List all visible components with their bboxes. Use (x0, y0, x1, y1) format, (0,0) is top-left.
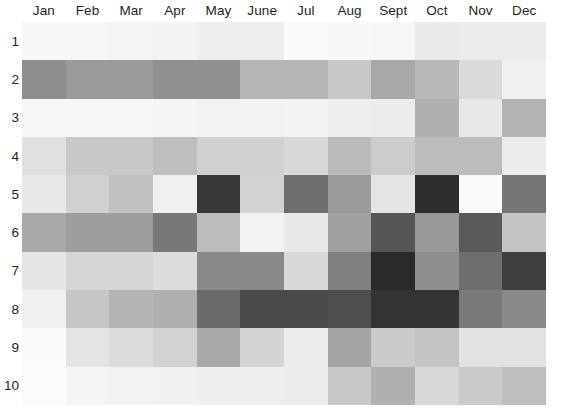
heatmap-cell-9-Nov (459, 328, 503, 366)
heatmap-cell-4-Oct (415, 137, 459, 175)
column-header-mar: Mar (109, 0, 153, 22)
row-header-8: 8 (0, 290, 22, 328)
heatmap-cell-6-Apr (153, 213, 197, 251)
heatmap-cell-8-May (197, 290, 241, 328)
heatmap-cell-1-Feb (66, 22, 110, 60)
heatmap-cell-2-May (197, 60, 241, 98)
heatmap-cell-8-Mar (109, 290, 153, 328)
heatmap-cell-7-Aug (328, 252, 372, 290)
heatmap-cell-1-Aug (328, 22, 372, 60)
heatmap-row-6 (22, 213, 546, 251)
heatmap-row-7 (22, 252, 546, 290)
heatmap-cell-10-Jul (284, 367, 328, 405)
heatmap-cell-8-Apr (153, 290, 197, 328)
heatmap-cell-2-Nov (459, 60, 503, 98)
heatmap-row-5 (22, 175, 546, 213)
heatmap-cell-1-June (240, 22, 284, 60)
heatmap-cell-1-May (197, 22, 241, 60)
heatmap-cell-6-Nov (459, 213, 503, 251)
row-header-9: 9 (0, 328, 22, 366)
heatmap-cell-7-June (240, 252, 284, 290)
heatmap-cell-3-June (240, 99, 284, 137)
heatmap-cell-8-Nov (459, 290, 503, 328)
row-header-5: 5 (0, 175, 22, 213)
heatmap-cell-6-Jul (284, 213, 328, 251)
heatmap-cell-5-Sept (371, 175, 415, 213)
heatmap-cell-4-Dec (502, 137, 546, 175)
heatmap-cell-7-Sept (371, 252, 415, 290)
heatmap-cell-8-Jul (284, 290, 328, 328)
heatmap-cell-10-Sept (371, 367, 415, 405)
heatmap-cell-5-May (197, 175, 241, 213)
heatmap-cell-3-Apr (153, 99, 197, 137)
row-header-7: 7 (0, 252, 22, 290)
heatmap-cell-10-Apr (153, 367, 197, 405)
heatmap-cell-9-Feb (66, 328, 110, 366)
heatmap-cell-6-Aug (328, 213, 372, 251)
column-header-jan: Jan (22, 0, 66, 22)
heatmap-cell-5-Jan (22, 175, 66, 213)
heatmap-cell-3-Jul (284, 99, 328, 137)
heatmap-cell-10-June (240, 367, 284, 405)
heatmap-cell-8-June (240, 290, 284, 328)
heatmap-cell-1-Nov (459, 22, 503, 60)
heatmap-cell-6-Feb (66, 213, 110, 251)
heatmap-cell-5-Feb (66, 175, 110, 213)
heatmap-cell-8-Sept (371, 290, 415, 328)
heatmap-cell-10-Jan (22, 367, 66, 405)
heatmap-cell-6-May (197, 213, 241, 251)
heatmap-row-8 (22, 290, 546, 328)
heatmap-cell-5-Apr (153, 175, 197, 213)
heatmap-cell-10-Aug (328, 367, 372, 405)
heatmap-cell-2-Sept (371, 60, 415, 98)
heatmap-cell-6-June (240, 213, 284, 251)
column-header-sept: Sept (371, 0, 415, 22)
heatmap-cell-4-Mar (109, 137, 153, 175)
heatmap-cell-5-Aug (328, 175, 372, 213)
heatmap-cell-8-Feb (66, 290, 110, 328)
heatmap-cell-8-Oct (415, 290, 459, 328)
heatmap-cell-1-Sept (371, 22, 415, 60)
column-header-jul: Jul (284, 0, 328, 22)
heatmap-cell-7-Oct (415, 252, 459, 290)
heatmap-cell-1-Oct (415, 22, 459, 60)
heatmap-cell-9-June (240, 328, 284, 366)
heatmap-figure: Jan Feb Mar Apr May June Jul Aug Sept Oc… (0, 0, 564, 419)
heatmap-cell-9-Oct (415, 328, 459, 366)
heatmap-cell-3-Aug (328, 99, 372, 137)
heatmap-cell-5-Oct (415, 175, 459, 213)
heatmap-cell-9-Mar (109, 328, 153, 366)
column-header-row: Jan Feb Mar Apr May June Jul Aug Sept Oc… (22, 0, 546, 22)
heatmap-cell-2-Mar (109, 60, 153, 98)
heatmap-cell-10-Feb (66, 367, 110, 405)
heatmap-cell-1-Jul (284, 22, 328, 60)
heatmap-cell-3-Oct (415, 99, 459, 137)
heatmap-cell-3-Mar (109, 99, 153, 137)
heatmap-cell-9-Dec (502, 328, 546, 366)
heatmap-cell-2-Aug (328, 60, 372, 98)
heatmap-cell-1-Apr (153, 22, 197, 60)
heatmap-cell-7-Nov (459, 252, 503, 290)
heatmap-cell-8-Aug (328, 290, 372, 328)
heatmap-cell-3-Jan (22, 99, 66, 137)
heatmap-cell-4-Jul (284, 137, 328, 175)
column-header-dec: Dec (502, 0, 546, 22)
heatmap-row-1 (22, 22, 546, 60)
heatmap-cell-10-Oct (415, 367, 459, 405)
heatmap-cell-5-June (240, 175, 284, 213)
heatmap-cell-6-Mar (109, 213, 153, 251)
heatmap-cell-4-May (197, 137, 241, 175)
heatmap-cell-5-Dec (502, 175, 546, 213)
heatmap-row-2 (22, 60, 546, 98)
heatmap-cell-8-Dec (502, 290, 546, 328)
heatmap-cell-7-Feb (66, 252, 110, 290)
heatmap-cell-3-Sept (371, 99, 415, 137)
heatmap-cell-2-Oct (415, 60, 459, 98)
heatmap-cell-4-Aug (328, 137, 372, 175)
heatmap-cell-1-Dec (502, 22, 546, 60)
heatmap-cell-4-Sept (371, 137, 415, 175)
heatmap-cell-9-Jan (22, 328, 66, 366)
heatmap-cell-6-Dec (502, 213, 546, 251)
heatmap-cell-1-Mar (109, 22, 153, 60)
heatmap-cell-7-Dec (502, 252, 546, 290)
